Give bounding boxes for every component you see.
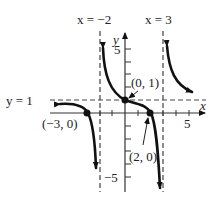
horizontal-asymptote-label: y = 1 bbox=[6, 93, 33, 108]
point-2-0-label: (2, 0) bbox=[129, 149, 157, 164]
middle-branch bbox=[103, 48, 160, 188]
vertical-asymptote-left-label: x = −2 bbox=[77, 12, 111, 27]
pointer-arrow-0-1 bbox=[129, 91, 138, 98]
point-0-1 bbox=[122, 97, 129, 104]
function-graph: x = −2 x = 3 y = 1 (0, 1) (−3, 0) (2, 0)… bbox=[0, 0, 224, 198]
point-neg3-0-label: (−3, 0) bbox=[42, 116, 78, 131]
curve bbox=[60, 46, 192, 188]
x-axis-label: x bbox=[199, 98, 206, 113]
x-tick-label-5: 5 bbox=[184, 116, 191, 131]
point-neg3-0 bbox=[84, 110, 91, 117]
point-0-1-label: (0, 1) bbox=[131, 75, 159, 90]
point-2-0 bbox=[147, 110, 154, 117]
y-tick-label-neg5: −5 bbox=[104, 170, 118, 185]
right-branch bbox=[167, 46, 192, 92]
pointer-arrow-2-0 bbox=[143, 118, 148, 145]
asymptotes bbox=[50, 31, 206, 192]
y-tick-label-5: 5 bbox=[114, 42, 121, 57]
vertical-asymptote-right-label: x = 3 bbox=[145, 12, 172, 27]
